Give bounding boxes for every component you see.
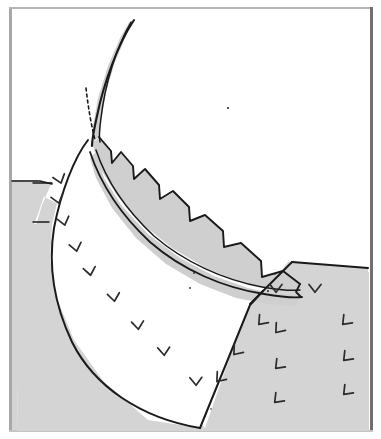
ink-speck-4 <box>274 273 276 275</box>
ink-speck-5 <box>210 408 212 410</box>
frame-right-edge <box>370 7 373 432</box>
ink-speck-0 <box>227 107 229 109</box>
ink-speck-1 <box>193 272 195 274</box>
ink-speck-3 <box>267 290 269 292</box>
geology-figure-container <box>0 0 381 439</box>
geology-diagram-svg <box>0 0 381 439</box>
frame-left-edge <box>9 7 12 432</box>
frame-top-edge <box>9 7 373 9</box>
ink-speck-2 <box>189 287 191 289</box>
